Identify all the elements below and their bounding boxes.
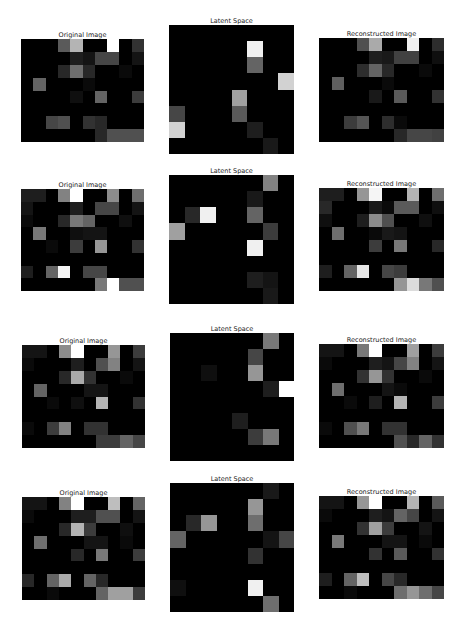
pixel-cell <box>369 278 382 291</box>
pixel-cell <box>59 384 71 397</box>
pixel-cell <box>58 253 70 266</box>
pixel-cell <box>279 564 295 580</box>
pixel-cell <box>319 77 332 90</box>
pixel-cell <box>382 240 395 253</box>
pixel-cell <box>394 265 407 278</box>
pixel-cell <box>332 357 345 370</box>
pixel-cell <box>169 90 185 106</box>
pixel-cell <box>263 515 279 531</box>
pixel-cell <box>232 57 248 73</box>
pixel-cell <box>22 371 34 384</box>
latent-space-panel: Latent Space <box>169 25 294 154</box>
pixel-cell <box>278 138 294 154</box>
pixel-cell <box>120 409 132 422</box>
pixel-cell <box>46 189 58 202</box>
pixel-cell <box>319 383 332 396</box>
pixel-cell <box>394 435 407 448</box>
pixel-cell <box>46 266 58 279</box>
pixel-cell <box>186 531 202 547</box>
pixel-cell <box>95 116 107 129</box>
pixel-cell <box>133 497 145 510</box>
pixel-cell <box>232 90 248 106</box>
pixel-cell <box>201 499 217 515</box>
pixel-cell <box>382 129 395 142</box>
pixel-cell <box>369 201 382 214</box>
pixel-cell <box>217 333 233 349</box>
pixel-cell <box>407 573 420 586</box>
pixel-cell <box>185 288 201 304</box>
pixel-cell <box>232 381 248 397</box>
pixel-cell <box>407 188 420 201</box>
pixel-cell <box>84 397 96 410</box>
pixel-cell <box>263 429 279 445</box>
pixel-cell <box>319 522 332 535</box>
pixel-cell <box>201 596 217 612</box>
pixel-cell <box>22 587 34 600</box>
pixel-cell <box>319 129 332 142</box>
pixel-cell <box>369 370 382 383</box>
pixel-cell <box>33 266 45 279</box>
pixel-cell <box>47 523 59 536</box>
pixel-cell <box>344 409 357 422</box>
pixel-grid <box>319 496 444 599</box>
pixel-cell <box>132 202 144 215</box>
pixel-cell <box>407 435 420 448</box>
pixel-cell <box>46 253 58 266</box>
pixel-cell <box>279 397 295 413</box>
pixel-cell <box>394 509 407 522</box>
pixel-cell <box>319 201 332 214</box>
pixel-cell <box>201 429 217 445</box>
pixel-cell <box>83 78 95 91</box>
pixel-cell <box>394 548 407 561</box>
pixel-cell <box>394 38 407 51</box>
pixel-cell <box>382 509 395 522</box>
pixel-cell <box>21 65 33 78</box>
pixel-cell <box>70 129 82 142</box>
pixel-cell <box>70 202 82 215</box>
pixel-cell <box>344 103 357 116</box>
pixel-cell <box>70 278 82 291</box>
pixel-cell <box>201 333 217 349</box>
pixel-cell <box>83 202 95 215</box>
pixel-cell <box>394 560 407 573</box>
pixel-cell <box>382 103 395 116</box>
pixel-cell <box>217 381 233 397</box>
pixel-cell <box>232 256 248 272</box>
pixel-cell <box>232 499 248 515</box>
pixel-cell <box>108 587 120 600</box>
pixel-cell <box>248 596 264 612</box>
pixel-cell <box>200 175 216 191</box>
pixel-cell <box>332 573 345 586</box>
pixel-cell <box>232 515 248 531</box>
pixel-cell <box>432 51 445 64</box>
pixel-cell <box>169 41 185 57</box>
pixel-cell <box>33 116 45 129</box>
pixel-cell <box>407 129 420 142</box>
pixel-cell <box>319 509 332 522</box>
pixel-cell <box>247 175 263 191</box>
pixel-cell <box>394 370 407 383</box>
pixel-cell <box>132 39 144 52</box>
pixel-cell <box>216 223 232 239</box>
pixel-cell <box>344 77 357 90</box>
pixel-cell <box>95 215 107 228</box>
pixel-cell <box>407 535 420 548</box>
pixel-cell <box>357 435 370 448</box>
pixel-cell <box>46 227 58 240</box>
pixel-cell <box>394 129 407 142</box>
pixel-cell <box>170 483 186 499</box>
original-image-panel: Original Image <box>22 345 145 448</box>
pixel-cell <box>382 77 395 90</box>
pixel-cell <box>319 252 332 265</box>
pixel-cell <box>369 409 382 422</box>
pixel-cell <box>71 397 83 410</box>
pixel-cell <box>217 580 233 596</box>
pixel-cell <box>95 103 107 116</box>
pixel-cell <box>232 272 248 288</box>
pixel-cell <box>432 64 445 77</box>
pixel-cell <box>357 252 370 265</box>
pixel-cell <box>407 422 420 435</box>
pixel-cell <box>232 483 248 499</box>
reconstructed-image-panel: Reconstructed Image <box>319 38 444 142</box>
pixel-cell <box>70 253 82 266</box>
